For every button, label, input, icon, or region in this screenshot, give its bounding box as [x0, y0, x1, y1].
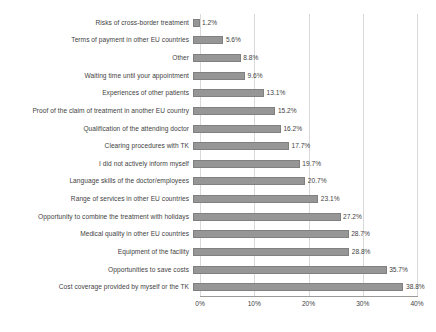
bar[interactable]: [193, 72, 245, 80]
bar-container: 5.6%: [193, 32, 436, 50]
bar-value-label: 16.2%: [283, 125, 302, 133]
bar-value-label: 20.7%: [308, 177, 327, 185]
bar-value-label: 8.8%: [243, 54, 258, 62]
bar[interactable]: [193, 89, 264, 97]
bar-container: 23.1%: [193, 190, 436, 208]
x-tick-label: 10%: [248, 299, 261, 308]
bar-value-label: 23.1%: [321, 195, 340, 203]
category-label: Range of services in other EU countries: [0, 195, 193, 203]
bar-value-label: 5.6%: [226, 36, 241, 44]
bar-row: Risks of cross-border treatment1.2%: [0, 14, 436, 32]
bar-container: 38.8%: [193, 278, 436, 296]
bar-container: 27.2%: [193, 208, 436, 226]
bar-row: Range of services in other EU countries2…: [0, 190, 436, 208]
bar-value-label: 17.7%: [292, 142, 311, 150]
bar-row: Terms of payment in other EU countries5.…: [0, 32, 436, 50]
category-label: Medical quality in other EU countries: [0, 230, 193, 238]
x-tick-label: 0%: [195, 299, 205, 308]
category-label: Qualification of the attending doctor: [0, 125, 193, 133]
category-label: Terms of payment in other EU countries: [0, 36, 193, 44]
bar-row: Clearing procedures with TK17.7%: [0, 137, 436, 155]
category-label: Opportunities to save costs: [0, 266, 193, 274]
bar-value-label: 35.7%: [389, 266, 408, 274]
bar-row: Medical quality in other EU countries28.…: [0, 226, 436, 244]
category-label: Proof of the claim of treatment in anoth…: [0, 107, 193, 115]
bar-row: Equipment of the facility28.8%: [0, 243, 436, 261]
bar-row: Experiences of other patients13.1%: [0, 85, 436, 103]
bar[interactable]: [193, 266, 387, 274]
bar[interactable]: [193, 54, 241, 62]
category-label: Cost coverage provided by myself or the …: [0, 283, 193, 291]
category-label: Language skills of the doctor/employees: [0, 177, 193, 185]
bar-container: 8.8%: [193, 49, 436, 67]
category-label: I did not actively inform myself: [0, 160, 193, 168]
bar-container: 17.7%: [193, 137, 436, 155]
bar-row: Opportunities to save costs35.7%: [0, 261, 436, 279]
bar[interactable]: [193, 125, 281, 133]
category-label: Opportunity to combine the treatment wit…: [0, 213, 193, 221]
category-label: Waiting time until your appointment: [0, 72, 193, 80]
bar-value-label: 19.7%: [302, 160, 321, 168]
bar-value-label: 38.8%: [406, 283, 425, 291]
bar-row: Proof of the claim of treatment in anoth…: [0, 102, 436, 120]
bar-container: 16.2%: [193, 120, 436, 138]
bar[interactable]: [193, 36, 223, 44]
bar[interactable]: [193, 248, 349, 256]
category-label: Risks of cross-border treatment: [0, 19, 193, 27]
bar-value-label: 28.8%: [352, 248, 371, 256]
bar-container: 13.1%: [193, 85, 436, 103]
bar-value-label: 1.2%: [202, 19, 217, 27]
bar-container: 35.7%: [193, 261, 436, 279]
x-tick-label: 40%: [410, 299, 423, 308]
bar-row: Cost coverage provided by myself or the …: [0, 278, 436, 296]
bar[interactable]: [193, 177, 305, 185]
bar-container: 28.8%: [193, 243, 436, 261]
bar-row: Qualification of the attending doctor16.…: [0, 120, 436, 138]
bar-container: 19.7%: [193, 155, 436, 173]
bar-value-label: 9.6%: [248, 72, 263, 80]
bar[interactable]: [193, 283, 403, 291]
bar-row: Opportunity to combine the treatment wit…: [0, 208, 436, 226]
bar-container: 1.2%: [193, 14, 436, 32]
category-label: Other: [0, 54, 193, 62]
bar-row: Waiting time until your appointment9.6%: [0, 67, 436, 85]
bar-rows: Risks of cross-border treatment1.2%Terms…: [0, 14, 436, 296]
x-tick-label: 20%: [302, 299, 315, 308]
category-label: Experiences of other patients: [0, 89, 193, 97]
bar-value-label: 15.2%: [278, 107, 297, 115]
bar[interactable]: [193, 213, 341, 221]
bar-row: I did not actively inform myself19.7%: [0, 155, 436, 173]
bar[interactable]: [193, 107, 275, 115]
bar-container: 15.2%: [193, 102, 436, 120]
bar-container: 9.6%: [193, 67, 436, 85]
bar-container: 20.7%: [193, 173, 436, 191]
bar-row: Language skills of the doctor/employees2…: [0, 173, 436, 191]
bar-row: Other8.8%: [0, 49, 436, 67]
category-label: Clearing procedures with TK: [0, 142, 193, 150]
bar-value-label: 13.1%: [267, 89, 286, 97]
bar-value-label: 28.7%: [351, 230, 370, 238]
bar-container: 28.7%: [193, 226, 436, 244]
bar[interactable]: [193, 195, 318, 203]
bar[interactable]: [193, 142, 289, 150]
x-tick-label: 30%: [356, 299, 369, 308]
bar[interactable]: [193, 19, 200, 27]
category-label: Equipment of the facility: [0, 248, 193, 256]
bar-chart: Risks of cross-border treatment1.2%Terms…: [0, 0, 436, 332]
x-axis-line: [200, 296, 418, 297]
bar-value-label: 27.2%: [343, 213, 362, 221]
bar[interactable]: [193, 160, 300, 168]
bar[interactable]: [193, 230, 349, 238]
